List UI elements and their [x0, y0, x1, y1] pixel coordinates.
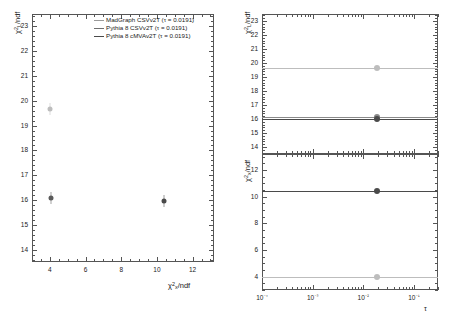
y-tick-label: 17	[10, 172, 28, 179]
tick-x-top	[438, 154, 439, 157]
tick-y-right	[435, 141, 438, 142]
tick-y-right	[435, 52, 438, 53]
tick-y-left	[32, 101, 37, 102]
tick-y-left	[262, 139, 265, 140]
tick-y-left	[32, 225, 37, 226]
right-bottom-y-axis-title: χ2x/ndf	[244, 160, 253, 182]
tick-y-left	[32, 51, 37, 52]
tick-x-top	[409, 14, 410, 17]
tick-y-right	[433, 21, 438, 22]
tick-y-right	[435, 108, 438, 109]
legend-swatch-pythia-cmva	[94, 36, 104, 37]
tick-y-right	[435, 29, 438, 30]
tick-y-right	[435, 243, 438, 244]
tick-y-right	[435, 66, 438, 67]
tick-y-right	[211, 111, 214, 112]
x-tick-label: 10	[145, 267, 169, 274]
tick-x-top	[68, 14, 69, 17]
tick-x-top	[414, 14, 415, 19]
tick-y-right	[435, 41, 438, 42]
tick-x-top	[355, 14, 356, 17]
tick-x-bottom	[148, 259, 149, 262]
tick-x-bottom	[297, 287, 298, 290]
tick-y-left	[262, 83, 265, 84]
tick-y-left	[32, 170, 35, 171]
tick-x-top	[210, 14, 211, 17]
tick-y-left	[262, 183, 265, 184]
tick-y-right	[211, 86, 214, 87]
tick-y-right	[433, 49, 438, 50]
tick-x-top	[394, 14, 395, 17]
tick-y-right	[209, 175, 214, 176]
tick-x-top	[363, 14, 364, 19]
tick-x-top	[262, 14, 263, 19]
tick-y-left	[32, 220, 35, 221]
tick-y-right	[211, 81, 214, 82]
tick-y-right	[435, 203, 438, 204]
tick-x-top	[86, 14, 87, 19]
tick-y-right	[435, 80, 438, 81]
tick-y-right	[433, 63, 438, 64]
data-marker	[47, 107, 52, 112]
tick-x-top	[277, 154, 278, 157]
tick-y-left	[262, 270, 265, 271]
tick-x-bottom	[328, 287, 329, 290]
tick-y-left	[262, 91, 267, 92]
tick-x-top	[328, 14, 329, 17]
tick-x-top	[438, 14, 439, 17]
tick-y-right	[211, 260, 214, 261]
tick-x-top	[202, 14, 203, 17]
tick-x-bottom	[361, 287, 362, 290]
tick-y-right	[435, 130, 438, 131]
tick-y-left	[32, 180, 35, 181]
tick-x-top	[355, 154, 356, 157]
tick-y-left	[262, 147, 267, 148]
y-tick-label: 19	[10, 123, 28, 130]
tick-y-left	[262, 35, 267, 36]
tick-x-bottom	[305, 287, 306, 290]
tick-y-left	[262, 27, 265, 28]
y-tick-label: 18	[10, 147, 28, 154]
tick-y-right	[435, 111, 438, 112]
tick-y-right	[435, 38, 438, 39]
tick-y-right	[211, 121, 214, 122]
tick-y-right	[209, 26, 214, 27]
tick-y-right	[435, 139, 438, 140]
tick-y-left	[262, 41, 265, 42]
tick-x-bottom	[193, 257, 194, 262]
data-marker	[374, 188, 380, 194]
tick-y-right	[435, 290, 438, 291]
tick-y-left	[262, 237, 265, 238]
series-line	[262, 191, 438, 192]
tick-y-right	[435, 136, 438, 137]
tick-y-left	[32, 131, 35, 132]
tick-x-bottom	[438, 287, 439, 290]
tick-y-left	[262, 21, 267, 22]
tick-y-left	[32, 31, 35, 32]
tick-x-top	[343, 14, 344, 17]
y-tick-label: 22	[10, 48, 28, 55]
tick-y-left	[32, 190, 35, 191]
tick-x-bottom	[387, 287, 388, 290]
tick-y-right	[209, 51, 214, 52]
tick-y-left	[32, 96, 35, 97]
y-tick-label: 21	[10, 73, 28, 80]
tick-x-top	[412, 14, 413, 17]
tick-x-top	[308, 154, 309, 157]
tick-x-top	[305, 14, 306, 17]
tick-y-right	[211, 230, 214, 231]
tick-y-left	[262, 136, 265, 137]
tick-y-left	[32, 195, 35, 196]
tick-y-left	[262, 52, 265, 53]
tick-y-left	[262, 111, 265, 112]
x-tick-label: 4	[38, 267, 62, 274]
tick-x-top	[277, 14, 278, 17]
tick-y-right	[211, 165, 214, 166]
tick-y-right	[433, 91, 438, 92]
tick-y-left	[262, 105, 267, 106]
y-tick-label: 20	[10, 98, 28, 105]
tick-y-right	[435, 237, 438, 238]
tick-y-left	[32, 145, 35, 146]
tick-y-right	[211, 145, 214, 146]
series-line	[262, 119, 438, 120]
